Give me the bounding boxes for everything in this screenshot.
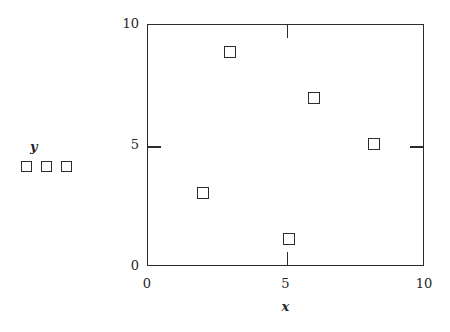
scatter-plot-figure: y 05100510x (0, 0, 450, 332)
data-point (368, 138, 380, 150)
y-tick-label-0: 0 (105, 259, 139, 272)
y-tick-left-5 (148, 146, 161, 148)
x-tick-label-0: 0 (127, 277, 167, 290)
legend-swatch-1 (21, 161, 32, 172)
x-tick-label-10: 10 (404, 277, 444, 290)
y-tick-label-5: 5 (105, 138, 139, 151)
legend-swatch-2 (41, 161, 52, 172)
data-point (224, 46, 236, 58)
data-point (283, 233, 295, 245)
x-tick-bottom-5 (287, 252, 289, 265)
x-tick-top-5 (287, 25, 289, 38)
legend-swatch-3 (61, 161, 72, 172)
x-axis-title: x (266, 300, 306, 313)
y-tick-label-10: 10 (105, 17, 139, 30)
y-tick-right-5 (410, 146, 423, 148)
legend: y (18, 140, 98, 180)
plot-area (148, 25, 423, 265)
data-point (197, 187, 209, 199)
x-tick-label-5: 5 (266, 277, 306, 290)
legend-title-y: y (30, 140, 38, 153)
data-point (308, 92, 320, 104)
plot-frame (147, 24, 424, 266)
